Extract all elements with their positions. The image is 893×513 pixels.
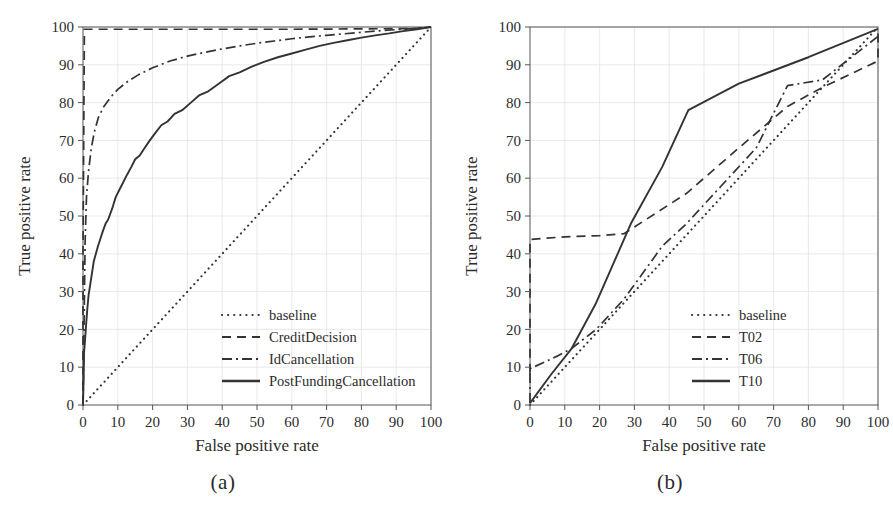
x-tick-label: 0 <box>79 414 87 430</box>
y-tick-label: 40 <box>506 246 521 262</box>
legend-label-t10: T10 <box>739 373 762 389</box>
x-tick-label: 70 <box>766 414 781 430</box>
legend-label-t02: T02 <box>739 329 762 345</box>
x-tick-label: 60 <box>731 414 746 430</box>
x-tick-label: 80 <box>354 414 369 430</box>
x-tick-label: 80 <box>801 414 816 430</box>
y-tick-label: 10 <box>59 359 74 375</box>
x-tick-label: 10 <box>557 414 572 430</box>
x-tick-label: 50 <box>697 414 712 430</box>
y-tick-label: 0 <box>514 397 522 413</box>
y-tick-label: 50 <box>59 208 74 224</box>
x-tick-label: 10 <box>110 414 125 430</box>
x-tick-label: 40 <box>215 414 230 430</box>
y-tick-label: 80 <box>506 95 521 111</box>
y-tick-label: 40 <box>59 246 74 262</box>
x-tick-label: 100 <box>420 414 443 430</box>
y-tick-label: 10 <box>506 359 521 375</box>
legend-label-t06: T06 <box>739 351 762 367</box>
x-axis-title: False positive rate <box>195 436 319 455</box>
x-tick-label: 70 <box>319 414 334 430</box>
panel-b-plot: 0102030405060708090100010203040506070809… <box>447 0 893 470</box>
x-tick-label: 90 <box>389 414 404 430</box>
legend: baselineCreditDecisionIdCancellationPost… <box>222 307 416 389</box>
y-axis-title: True positive rate <box>15 156 34 275</box>
panel-b: 0102030405060708090100010203040506070809… <box>447 0 893 513</box>
y-tick-label: 80 <box>59 95 74 111</box>
panel-a-plot: 0102030405060708090100010203040506070809… <box>0 0 446 470</box>
y-tick-label: 100 <box>52 19 75 35</box>
x-axis-title: False positive rate <box>642 436 766 455</box>
legend-label-baseline: baseline <box>269 307 317 323</box>
legend-label-creditdecision: CreditDecision <box>269 329 358 345</box>
y-tick-label: 70 <box>506 133 521 149</box>
x-tick-label: 100 <box>867 414 890 430</box>
x-tick-label: 30 <box>180 414 195 430</box>
y-tick-label: 90 <box>506 57 521 73</box>
x-tick-label: 20 <box>592 414 607 430</box>
x-tick-label: 0 <box>526 414 534 430</box>
legend-label-idcancellation: IdCancellation <box>269 351 355 367</box>
y-tick-label: 20 <box>59 322 74 338</box>
legend: baselineT02T06T10 <box>692 307 787 389</box>
y-tick-label: 60 <box>59 170 74 186</box>
x-tick-label: 20 <box>145 414 160 430</box>
y-tick-label: 20 <box>506 322 521 338</box>
panel-b-caption: (b) <box>447 470 893 495</box>
y-tick-label: 30 <box>59 284 74 300</box>
y-tick-label: 50 <box>506 208 521 224</box>
y-tick-label: 90 <box>59 57 74 73</box>
y-tick-label: 70 <box>59 133 74 149</box>
x-tick-label: 50 <box>250 414 265 430</box>
y-tick-label: 100 <box>499 19 522 35</box>
x-tick-label: 30 <box>627 414 642 430</box>
y-tick-label: 0 <box>67 397 75 413</box>
legend-label-postfundingcancellation: PostFundingCancellation <box>269 373 416 389</box>
panel-a: 0102030405060708090100010203040506070809… <box>0 0 446 513</box>
x-tick-label: 90 <box>836 414 851 430</box>
legend-label-baseline: baseline <box>739 307 787 323</box>
panel-a-caption: (a) <box>0 470 446 495</box>
x-tick-label: 60 <box>284 414 299 430</box>
y-tick-label: 60 <box>506 170 521 186</box>
roc-figure: 0102030405060708090100010203040506070809… <box>0 0 893 513</box>
x-tick-label: 40 <box>662 414 677 430</box>
y-tick-label: 30 <box>506 284 521 300</box>
y-axis-title: True positive rate <box>462 156 481 275</box>
